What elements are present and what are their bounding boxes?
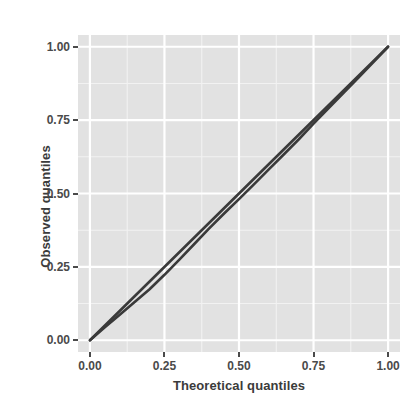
x-tick-mark (387, 352, 389, 357)
x-tick-label: 0.25 (153, 359, 176, 373)
x-tick-mark (238, 352, 240, 357)
x-axis-title: Theoretical quantiles (78, 378, 400, 393)
y-tick-label: 0.75 (26, 113, 70, 127)
x-tick-label: 0.00 (78, 359, 101, 373)
x-tick-mark (313, 352, 315, 357)
y-tick-label: 0.25 (26, 260, 70, 274)
plot-panel (78, 35, 400, 352)
qq-plot-figure: Observed quantiles 0.000.250.500.751.00 … (0, 0, 420, 413)
y-tick-label: 1.00 (26, 40, 70, 54)
x-tick-label: 0.50 (227, 359, 250, 373)
x-tick-label: 1.00 (376, 359, 399, 373)
plot-canvas (78, 35, 400, 352)
x-tick-mark (163, 352, 165, 357)
y-tick-label: 0.00 (26, 333, 70, 347)
x-axis-tick-labels: 0.000.250.500.751.00 (0, 359, 420, 379)
x-tick-mark (89, 352, 91, 357)
x-tick-label: 0.75 (302, 359, 325, 373)
y-tick-label: 0.50 (26, 187, 70, 201)
